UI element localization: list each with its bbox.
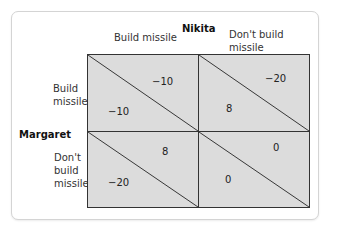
row-player-label: Margaret — [19, 128, 71, 141]
row-header-build: Build missile — [53, 82, 88, 108]
diagonal-divider — [199, 55, 309, 131]
row-header-line: build — [54, 164, 89, 177]
row-header-line: missile — [54, 177, 89, 190]
column-header-line: missile — [229, 41, 284, 54]
nikita-payoff: 8 — [162, 146, 168, 157]
row-header-dont-build: Don't build missile — [54, 151, 89, 190]
row-header-line: Build — [53, 82, 88, 95]
cell-build-build: −10 −10 — [87, 54, 199, 132]
column-header-dont-build: Don't build missile — [229, 28, 284, 54]
margaret-payoff: 8 — [226, 103, 232, 114]
nikita-payoff: −20 — [265, 73, 286, 84]
column-header-build: Build missile — [114, 31, 177, 44]
margaret-payoff: 0 — [225, 174, 231, 185]
payoff-grid: −10 −10 −20 8 8 −20 0 0 — [87, 54, 310, 208]
margaret-payoff: −20 — [108, 177, 129, 188]
margaret-payoff: −10 — [108, 106, 129, 117]
cell-dontbuild-build: 8 −20 — [87, 131, 199, 208]
column-player-label: Nikita — [182, 22, 215, 35]
row-header-line: Don't — [54, 151, 89, 164]
row-header-line: missile — [53, 95, 88, 108]
column-header-line: Don't build — [229, 28, 284, 41]
diagonal-divider — [199, 132, 309, 207]
diagonal-divider — [88, 55, 198, 131]
nikita-payoff: −10 — [152, 76, 173, 87]
cell-dontbuild-dontbuild: 0 0 — [198, 131, 310, 208]
diagonal-divider — [88, 132, 198, 207]
cell-build-dontbuild: −20 8 — [198, 54, 310, 132]
nikita-payoff: 0 — [273, 142, 279, 153]
